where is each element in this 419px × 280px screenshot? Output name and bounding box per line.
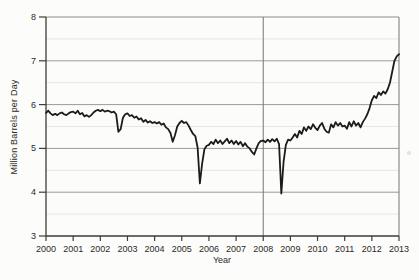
x-tick-label: 2000 <box>36 244 56 254</box>
x-tick-label: 2007 <box>226 244 246 254</box>
x-tick-label: 2010 <box>308 244 328 254</box>
x-tick-label: 2005 <box>172 244 192 254</box>
x-axis-title: Year <box>213 255 231 265</box>
y-tick-label: 5 <box>31 143 36 153</box>
y-tick-label: 6 <box>31 100 36 110</box>
x-tick-label: 2001 <box>63 244 83 254</box>
y-tick-label: 3 <box>31 231 36 241</box>
x-tick-label: 2002 <box>90 244 110 254</box>
x-tick-label: 2013 <box>389 244 409 254</box>
x-tick-label: 2008 <box>253 244 273 254</box>
y-tick-label: 7 <box>31 56 36 66</box>
scan-artifact <box>407 151 411 155</box>
x-tick-label: 2009 <box>280 244 300 254</box>
y-tick-label: 8 <box>31 12 36 22</box>
x-tick-label: 2004 <box>145 244 165 254</box>
y-axis-title: Million Barrels per Day <box>9 79 19 174</box>
x-tick-label: 2003 <box>117 244 137 254</box>
x-tick-label: 2006 <box>199 244 219 254</box>
line-chart-figure: 3456782000200120022003200420052006200720… <box>0 0 419 280</box>
x-tick-label: 2011 <box>335 244 354 254</box>
y-tick-label: 4 <box>31 187 36 197</box>
x-tick-label: 2012 <box>362 244 382 254</box>
chart-canvas: 3456782000200120022003200420052006200720… <box>0 0 419 280</box>
data-line <box>46 54 399 193</box>
